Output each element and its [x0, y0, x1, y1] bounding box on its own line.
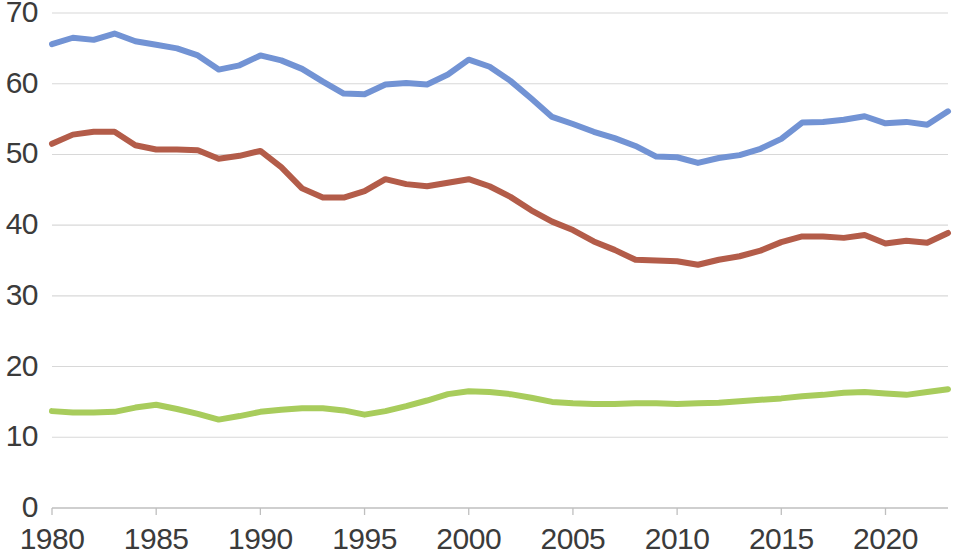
x-tick-label: 2015: [736, 524, 826, 554]
x-tick-label: 2005: [528, 524, 618, 554]
y-tick-label: 60: [6, 68, 38, 98]
gridlines: [52, 13, 948, 508]
y-tick-label: 30: [6, 280, 38, 310]
line-chart: 010203040506070 198019851990199520002005…: [0, 0, 959, 558]
y-tick-label: 50: [6, 138, 38, 168]
y-tick-label: 10: [6, 421, 38, 451]
series-green: [52, 389, 948, 419]
x-tick-label: 2000: [424, 524, 514, 554]
series-blue: [52, 34, 948, 163]
y-tick-label: 0: [22, 492, 38, 522]
x-axis-ticks: [52, 508, 885, 515]
x-tick-label: 2010: [632, 524, 722, 554]
series-red: [52, 132, 948, 265]
x-tick-label: 1990: [215, 524, 305, 554]
x-tick-label: 2020: [840, 524, 930, 554]
y-tick-label: 70: [6, 0, 38, 27]
y-tick-label: 40: [6, 209, 38, 239]
chart-canvas: [0, 0, 959, 558]
x-tick-label: 1995: [320, 524, 410, 554]
y-tick-label: 20: [6, 351, 38, 381]
x-tick-label: 1980: [7, 524, 97, 554]
series-lines: [52, 34, 948, 420]
x-tick-label: 1985: [111, 524, 201, 554]
